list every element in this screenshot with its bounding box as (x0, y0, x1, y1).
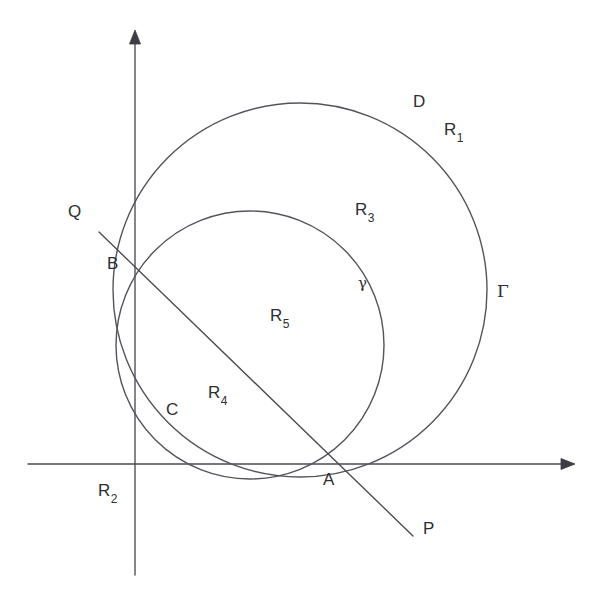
geometry-canvas (0, 0, 595, 606)
line-endpoint-label-p: P (423, 520, 434, 537)
region-label-r5-sub: 5 (283, 317, 290, 331)
line-endpoint-label-q: Q (68, 203, 81, 220)
region-label-r3-base: R (355, 200, 367, 219)
region-label-r2: R2 (98, 482, 117, 502)
region-label-r2-sub: 2 (111, 492, 118, 506)
region-label-r4: R4 (208, 384, 227, 404)
point-label-b: B (107, 255, 118, 272)
circle-big-gamma (113, 103, 487, 477)
region-label-r3-sub: 3 (368, 211, 375, 225)
geometry-figure: A B Q P D C Γ γ R1 R2 R3 R4 R5 (0, 0, 595, 606)
region-label-r1-base: R (444, 120, 456, 139)
region-label-r2-base: R (98, 481, 110, 500)
y-axis-arrow-icon (130, 30, 141, 44)
region-label-r5-base: R (270, 306, 282, 325)
circle-label-gamma-lowercase: γ (358, 276, 367, 291)
region-label-r4-sub: 4 (221, 394, 228, 408)
circle-label-gamma-uppercase: Γ (497, 283, 509, 300)
region-label-r4-base: R (208, 383, 220, 402)
region-label-r5: R5 (270, 307, 289, 327)
region-label-r3: R3 (355, 201, 374, 221)
arc-label-d: D (413, 93, 425, 110)
point-label-a: A (323, 471, 334, 488)
arc-label-c: C (166, 401, 178, 418)
region-label-r1-sub: 1 (457, 131, 464, 145)
region-label-r1: R1 (444, 121, 463, 141)
x-axis-arrow-icon (561, 459, 575, 470)
circle-small-gamma (116, 211, 384, 479)
